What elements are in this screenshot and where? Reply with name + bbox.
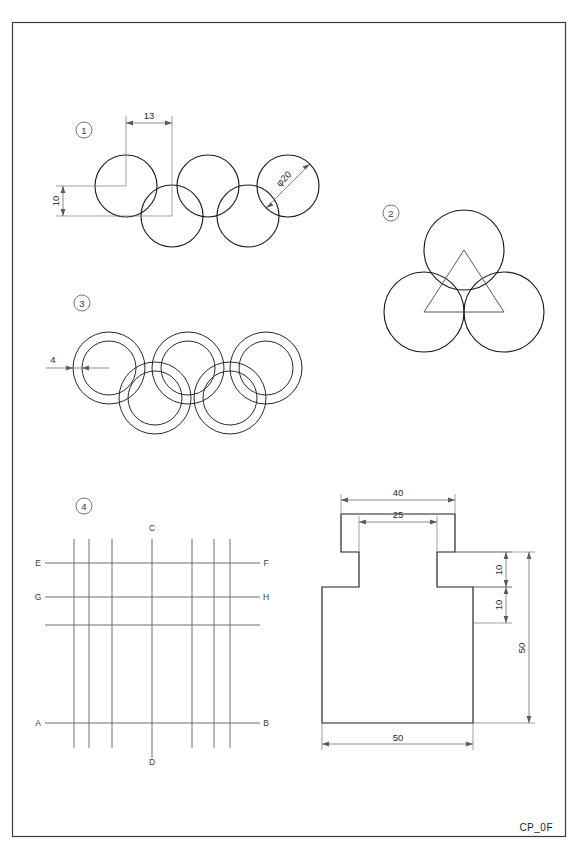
figure-4-group (45, 498, 260, 758)
fig1-dim-13-label: 13 (144, 110, 155, 121)
figure-3-group (46, 295, 302, 434)
fig4-label-H: H (263, 592, 269, 602)
sheet-footer-label: CP_0F (519, 822, 553, 833)
figure-2-marker-label: 2 (388, 208, 393, 219)
fig1-circle-4 (217, 185, 279, 247)
figure-1-marker-label: 1 (81, 125, 86, 136)
fig1-circle-3 (177, 155, 239, 217)
fig4-label-G: G (35, 592, 42, 602)
figure-5-group (322, 494, 535, 750)
fig3-dim-4 (46, 366, 109, 371)
fig5-dim-25-label: 25 (393, 509, 404, 520)
fig4-label-E: E (35, 558, 41, 568)
fig5-dim-25 (359, 516, 437, 552)
fig3-dim-4-label: 4 (50, 354, 55, 365)
fig3-ring-3 (152, 332, 224, 404)
fig5-part-profile (322, 514, 473, 723)
fig1-dim-diameter-label: φ20 (274, 169, 294, 189)
figure-2-group (383, 205, 544, 352)
sheet-border (13, 23, 566, 837)
fig3-ring-2 (119, 362, 191, 434)
fig5-dim-50-height (455, 552, 535, 723)
fig4-label-A: A (35, 718, 41, 728)
fig5-dim-50-height-label: 50 (516, 643, 527, 654)
fig5-dim-40-label: 40 (393, 487, 404, 498)
drawing-sheet: 1 2 3 4 13 10 φ20 4 C D E F G H A B 40 2… (0, 0, 578, 859)
figure-4-marker-label: 4 (81, 501, 86, 512)
fig1-dim-10-label: 10 (50, 196, 61, 207)
technical-drawing-canvas: 1 2 3 4 13 10 φ20 4 C D E F G H A B 40 2… (0, 0, 578, 859)
fig5-dim-10-lower-label: 10 (493, 600, 504, 611)
fig4-vertical-lines (74, 539, 230, 758)
fig1-dim-diameter (266, 164, 310, 208)
figure-3-marker-label: 3 (79, 298, 84, 309)
fig4-label-B: B (263, 718, 269, 728)
fig5-dim-50-width-label: 50 (393, 732, 404, 743)
fig4-label-F: F (263, 558, 268, 568)
fig4-label-C: C (149, 523, 155, 533)
fig4-label-D: D (149, 757, 155, 767)
fig5-dim-10-upper-label: 10 (493, 565, 504, 576)
fig2-inscribed-triangle (424, 250, 504, 312)
